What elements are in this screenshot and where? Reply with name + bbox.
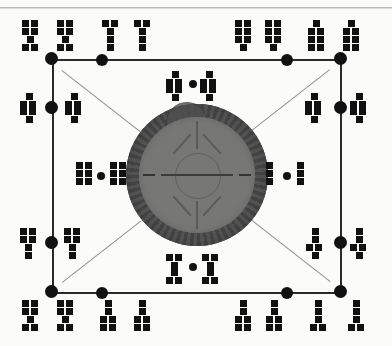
- node-left-lower[interactable]: [45, 236, 58, 249]
- glyph-gridstem-tmr-1: [235, 20, 253, 54]
- glyph-column-right-2: [297, 162, 305, 188]
- glyph-columnfoot-br-2: [348, 300, 366, 334]
- central-disc: [126, 104, 268, 246]
- tick-left: [143, 174, 155, 176]
- glyph-grid-left-1: [76, 162, 94, 188]
- scan-watermark: [358, 261, 383, 297]
- frame-edge-right: [340, 59, 342, 293]
- glyph-column-right-1: [266, 162, 274, 188]
- node-top-inner-right[interactable]: [281, 54, 293, 66]
- spoke-nw: [173, 134, 192, 155]
- tick-right: [239, 174, 251, 176]
- glyph-I-bot-2: [202, 254, 220, 284]
- glyph-cross-rl-2: [350, 228, 370, 260]
- glyph-H-tl-2: [57, 20, 75, 54]
- glyph-cross-lu-2: [65, 93, 85, 123]
- marker-right-center[interactable]: [283, 172, 291, 180]
- glyph-cross-ru-1: [305, 93, 325, 123]
- frame-edge-left: [52, 59, 54, 293]
- glyph-stemgrid-bm-2: [134, 300, 152, 334]
- glyph-grid-left-2: [110, 162, 128, 188]
- node-bottom-right-corner[interactable]: [334, 285, 347, 298]
- node-left-upper[interactable]: [45, 101, 58, 114]
- glyph-capgrid-tr-1: [308, 20, 326, 54]
- glyph-cross-ru-2: [350, 93, 370, 123]
- spoke-se: [203, 196, 222, 217]
- marker-left-center[interactable]: [97, 172, 105, 180]
- glyph-cross-top-2: [200, 71, 220, 101]
- glyph-H-tl-1: [22, 20, 40, 54]
- glyph-I-bot-1: [166, 254, 184, 284]
- glyph-cross-top-1: [166, 71, 186, 101]
- glyph-capgrid-tr-2: [343, 20, 361, 54]
- scanned-diagram-canvas: [0, 0, 392, 346]
- glyph-columnfoot-br-1: [310, 300, 328, 334]
- spoke-s: [196, 201, 198, 229]
- glyph-cross-lu-1: [20, 93, 40, 123]
- spoke-n: [196, 121, 198, 149]
- marker-bottom-center[interactable]: [189, 263, 197, 271]
- node-right-lower[interactable]: [334, 236, 347, 249]
- node-right-upper[interactable]: [334, 101, 347, 114]
- node-bottom-inner-left[interactable]: [96, 287, 108, 299]
- glyph-H-bl-2: [57, 300, 75, 334]
- disc-inner-circle: [175, 153, 221, 199]
- spoke-ne: [203, 134, 222, 155]
- glyph-stemgrid-bmr-1: [235, 300, 253, 334]
- disc-face: [139, 117, 255, 233]
- glyph-T-tm-2: [134, 20, 152, 54]
- glyph-stemgrid-bm-1: [100, 300, 118, 334]
- glyph-gridstem-ll-1: [20, 228, 38, 260]
- glyph-cross-rl-1: [306, 228, 326, 260]
- marker-top-center[interactable]: [189, 80, 197, 88]
- node-bottom-inner-right[interactable]: [281, 287, 293, 299]
- spoke-sw: [173, 196, 192, 217]
- glyph-T-tm-1: [102, 20, 120, 54]
- center-bar: [161, 174, 233, 176]
- node-bottom-left-corner[interactable]: [45, 285, 58, 298]
- glyph-stemgrid-bmr-2: [266, 300, 284, 334]
- glyph-gridstem-ll-2: [64, 228, 82, 260]
- node-top-inner-left[interactable]: [96, 54, 108, 66]
- page-edge-line-shadow: [0, 8, 392, 9]
- glyph-H-bl-1: [22, 300, 40, 334]
- glyph-gridstem-tmr-2: [265, 20, 283, 54]
